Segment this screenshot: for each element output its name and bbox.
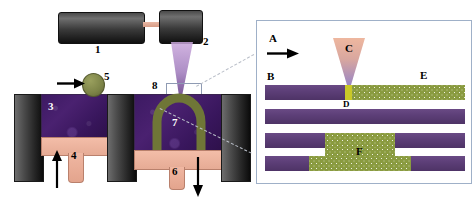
center-divider-wall: [107, 94, 137, 182]
inset-label-B: B: [267, 71, 274, 82]
right-outer-wall: [221, 94, 251, 182]
powder-layer-row4-right: [411, 156, 465, 171]
scanner-focusing-head: [159, 10, 203, 44]
callout-leader-upper: [196, 54, 254, 87]
label-2: 2: [203, 36, 209, 47]
build-piston-down-arrow: [192, 157, 204, 197]
powder-layer-row3-right: [395, 133, 465, 148]
magnified-inset-panel: A C B D E: [256, 20, 472, 184]
powder-layer-row2: [265, 109, 465, 124]
inset-label-D: D: [343, 100, 350, 109]
powder-layer-row4-left: [265, 156, 309, 171]
powder-spreading-roller: [82, 73, 105, 97]
label-5: 5: [104, 71, 110, 82]
laser-source-body: [58, 12, 145, 44]
label-6: 6: [172, 166, 178, 177]
scan-direction-arrow: [267, 48, 299, 59]
label-1: 1: [95, 44, 101, 55]
label-4: 4: [71, 150, 77, 161]
unmelted-powder-layer: [265, 85, 347, 100]
roller-direction-arrow: [57, 78, 85, 89]
inset-label-F: F: [356, 146, 363, 157]
solidified-track: [352, 85, 465, 100]
consolidated-step-row4: [309, 156, 411, 171]
beam-guide-connector: [143, 22, 159, 27]
label-8: 8: [152, 80, 158, 91]
inset-label-A: A: [269, 33, 277, 44]
label-7: 7: [172, 117, 178, 128]
figure-canvas: 1 2 8 3 4 5 7: [0, 0, 476, 207]
left-outer-wall: [14, 94, 44, 182]
powder-layer-row3-left: [265, 133, 325, 148]
feed-piston-up-arrow: [51, 150, 63, 188]
inset-label-E: E: [420, 70, 427, 81]
label-3: 3: [48, 101, 54, 112]
built-part-arch: [148, 92, 210, 152]
inset-label-C: C: [345, 43, 353, 54]
